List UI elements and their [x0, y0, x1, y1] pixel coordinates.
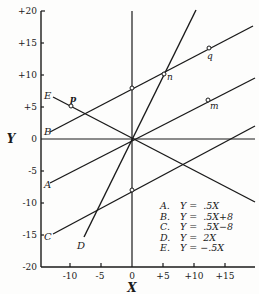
y-tick-label: -20 — [23, 262, 38, 272]
y-tick-label: -10 — [23, 198, 38, 208]
legend-row: E.Y = −.5X — [160, 243, 233, 254]
x-tick-label: 0 — [129, 271, 135, 281]
point-b-intercept — [130, 86, 134, 90]
y-tick-label: -15 — [23, 230, 38, 240]
x-axis-label: X — [126, 281, 137, 294]
x-tick-label: +5 — [156, 271, 170, 281]
point-c-intercept — [130, 188, 134, 192]
y-tick-label: +5 — [24, 102, 38, 112]
point-n — [162, 72, 166, 76]
legend-row: C.Y = .5X−8 — [160, 222, 233, 233]
point-label-p: p — [70, 94, 77, 104]
legend-row: A.Y = .5X — [160, 201, 233, 212]
point-label-q: q — [207, 51, 213, 61]
legend: A.Y = .5X B.Y = .5X+8 C.Y = .5X−8 D.Y = … — [160, 201, 233, 254]
point-label-n: n — [167, 72, 173, 82]
x-tick-label: +10 — [185, 271, 204, 281]
line-label-a: A — [43, 179, 51, 190]
x-tick-label: +15 — [216, 271, 235, 281]
line-label-c: C — [44, 231, 52, 242]
y-tick-label: +10 — [18, 70, 37, 80]
line-label-e: E — [43, 90, 52, 101]
point-p — [69, 104, 73, 108]
x-tick-label: -5 — [96, 271, 105, 281]
point-q — [207, 46, 211, 50]
point-label-m: m — [210, 101, 219, 111]
y-tick-label: -5 — [28, 166, 37, 176]
x-tick-label: -10 — [63, 271, 78, 281]
y-axis-label: Y — [7, 132, 17, 146]
y-tick-label: 0 — [31, 134, 37, 144]
line-a — [50, 78, 255, 183]
y-tick-label: +20 — [18, 6, 37, 16]
line-b — [50, 26, 253, 132]
line-label-b: B — [43, 126, 51, 137]
line-label-d: D — [76, 240, 85, 251]
y-tick-label: +15 — [18, 38, 37, 48]
line-e — [53, 97, 255, 202]
